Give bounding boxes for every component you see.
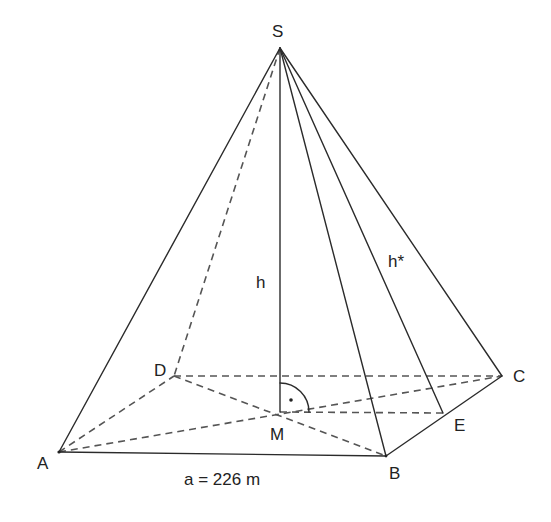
- base-edge-label: a = 226 m: [184, 471, 260, 488]
- pyramid-diagram: S A B C D M E h h* a = 226 m: [0, 0, 551, 522]
- slant-height-SE: [280, 48, 443, 413]
- vertex-label-B: B: [389, 465, 400, 482]
- edge-SC: [280, 48, 502, 376]
- vertex-label-E: E: [454, 417, 465, 434]
- vertex-label-A: A: [37, 455, 48, 472]
- vertex-A-dot: [57, 450, 60, 453]
- right-angle-arc-icon: [280, 383, 309, 412]
- edge-AB: [59, 452, 386, 456]
- right-angle-dot-icon: [289, 398, 293, 402]
- vertex-label-D: D: [154, 362, 166, 379]
- vertex-label-C: C: [513, 368, 525, 385]
- edge-AD: [59, 376, 174, 452]
- edge-SB: [280, 48, 386, 456]
- vertex-label-S: S: [272, 23, 283, 40]
- height-label: h: [256, 274, 265, 291]
- vertex-B-dot: [385, 455, 388, 458]
- slant-height-label: h*: [388, 253, 404, 270]
- segment-ME: [280, 412, 443, 413]
- vertex-label-M: M: [270, 426, 284, 443]
- edge-BC: [386, 376, 502, 456]
- edge-SA: [59, 48, 280, 452]
